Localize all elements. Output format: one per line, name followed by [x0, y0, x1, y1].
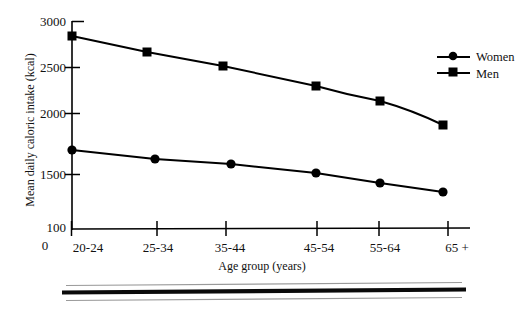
- x-tick-label-65-plus: 65 +: [445, 240, 469, 255]
- y-tick-label-2500: 2500: [40, 60, 66, 75]
- series-line-men: [72, 36, 443, 125]
- x-tick-label-55-64: 55-64: [370, 240, 401, 255]
- x-tick-label-45-54: 45-54: [304, 240, 335, 255]
- data-point-women-1: [150, 154, 159, 163]
- circle-marker-icon: [449, 52, 458, 61]
- data-point-women-3: [311, 168, 320, 177]
- x-tick-label-25-34: 25-34: [143, 240, 174, 255]
- data-point-women-0: [67, 145, 76, 154]
- data-point-men-5: [439, 121, 448, 130]
- footer-rules: [62, 283, 466, 301]
- data-point-women-2: [226, 159, 235, 168]
- y-tick-label-1500: 1500: [40, 167, 66, 182]
- x-axis-title: Age group (years): [218, 259, 305, 273]
- x-axis-line: [72, 228, 470, 229]
- series-line-women: [72, 150, 443, 192]
- y-tick-label-2000: 2000: [40, 106, 66, 121]
- legend-label-men: Men: [476, 67, 500, 81]
- legend-label-women: Women: [476, 50, 515, 64]
- data-point-men-0: [68, 32, 77, 41]
- line-chart-svg: Mean daily caloric intake (kcal) 3000 25…: [0, 0, 524, 309]
- data-point-men-2: [219, 62, 228, 71]
- y-tick-label-3000: 3000: [40, 14, 66, 29]
- y-axis-title: Mean daily caloric intake (kcal): [23, 53, 37, 206]
- x-tick-label-35-44: 35-44: [215, 240, 246, 255]
- data-point-men-3: [312, 82, 321, 91]
- data-point-men-4: [376, 97, 385, 106]
- x-tick-label-20-24: 20-24: [73, 240, 104, 255]
- footer-rule-middle: [62, 290, 466, 293]
- data-point-men-1: [143, 48, 152, 57]
- footer-rule-bottom: [66, 298, 462, 301]
- square-marker-icon: [449, 68, 458, 77]
- y-axis-zero-label: 0: [42, 238, 49, 253]
- chart-legend: Women Men: [437, 50, 515, 81]
- footer-rule-top: [66, 283, 462, 286]
- legend-entry-men[interactable]: Men: [437, 67, 500, 81]
- data-point-women-5: [438, 187, 447, 196]
- legend-entry-women[interactable]: Women: [437, 50, 515, 64]
- chart-figure: Mean daily caloric intake (kcal) 3000 25…: [0, 0, 524, 309]
- y-tick-label-1000: 100: [47, 220, 67, 235]
- data-point-women-4: [375, 178, 384, 187]
